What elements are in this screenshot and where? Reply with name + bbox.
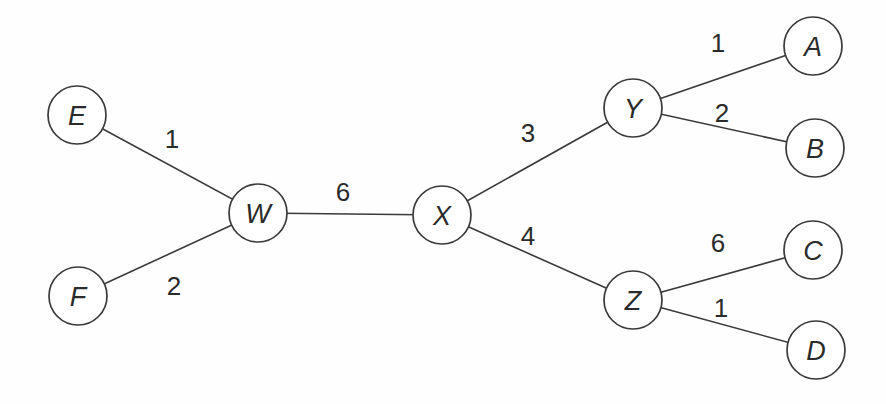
edge-weight-Z-C: 6 xyxy=(711,228,725,258)
node-D-label: D xyxy=(806,336,826,366)
edge-weight-F-W: 2 xyxy=(167,271,181,301)
node-X-label: X xyxy=(432,201,452,231)
edge-weight-X-Y: 3 xyxy=(521,118,535,148)
figure-page: 126341261EFWXYZABCD xyxy=(0,0,886,404)
weighted-graph-canvas: 126341261EFWXYZABCD xyxy=(0,0,886,404)
node-B-label: B xyxy=(806,134,824,164)
edge-X-Z xyxy=(442,215,633,300)
edge-weight-Z-D: 1 xyxy=(714,293,728,323)
node-F-label: F xyxy=(70,282,88,312)
edge-weight-W-X: 6 xyxy=(336,177,350,207)
edge-weight-Y-B: 2 xyxy=(715,98,729,128)
node-A-label: A xyxy=(802,32,822,62)
edge-X-Y xyxy=(442,108,633,215)
edge-weight-X-Z: 4 xyxy=(521,221,535,251)
node-Z-label: Z xyxy=(624,286,643,316)
node-W-label: W xyxy=(245,199,273,229)
edge-weight-Y-A: 1 xyxy=(711,28,725,58)
edge-weight-E-W: 1 xyxy=(165,124,179,154)
node-C-label: C xyxy=(803,236,823,266)
node-E-label: E xyxy=(68,101,87,131)
node-Y-label: Y xyxy=(624,94,644,124)
